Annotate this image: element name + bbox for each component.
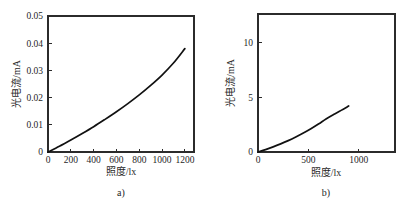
y-tick-label: 5	[248, 93, 253, 103]
x-tick-label: 0	[46, 155, 51, 165]
chart-b-caption: b)	[322, 187, 330, 199]
figure-root: 020040060080010001200 00.010.020.030.040…	[0, 0, 412, 207]
x-tick-label: 0	[256, 155, 261, 165]
chart-a-caption: a)	[117, 187, 125, 199]
chart-a-canvas: 020040060080010001200 00.010.020.030.040…	[0, 0, 212, 207]
x-tick-label: 200	[64, 155, 79, 165]
x-tick-label: 1000	[153, 155, 172, 165]
y-tick-label: 0.05	[26, 11, 43, 21]
chart-panel-a: 020040060080010001200 00.010.020.030.040…	[0, 0, 212, 207]
y-tick-label: 0	[248, 147, 253, 157]
y-tick-label: 0	[38, 147, 43, 157]
chart-a-x-tick-labels: 020040060080010001200	[46, 155, 195, 165]
y-tick-label: 0.04	[26, 39, 43, 49]
chart-a-x-axis-title: 照度/lx	[106, 165, 137, 177]
y-tick-label: 0.02	[26, 93, 43, 103]
chart-b-plot-frame	[258, 14, 395, 152]
x-tick-label: 400	[87, 155, 102, 165]
x-tick-label: 500	[301, 155, 316, 165]
chart-b-x-tick-labels: 05001000	[256, 155, 369, 165]
x-tick-label: 1000	[349, 155, 368, 165]
y-tick-label: 0.03	[26, 66, 43, 76]
chart-a-y-tick-labels: 00.010.020.030.040.05	[26, 11, 43, 157]
chart-b-x-axis-title: 照度/lx	[311, 166, 342, 178]
chart-b-y-axis-title: 光电流/mA	[224, 58, 236, 107]
y-tick-label: 0.01	[26, 120, 43, 130]
x-tick-label: 1200	[175, 155, 194, 165]
chart-a-y-axis-title: 光电流/mA	[10, 59, 22, 108]
chart-panel-b: 05001000 0510 照度/lx 光电流/mA b)	[212, 0, 412, 207]
x-tick-label: 600	[109, 155, 124, 165]
chart-b-y-tick-labels: 0510	[244, 38, 254, 158]
chart-b-canvas: 05001000 0510 照度/lx 光电流/mA b)	[212, 0, 412, 207]
y-tick-label: 10	[244, 38, 254, 48]
chart-a-data-curve	[48, 49, 185, 152]
chart-b-data-curve	[258, 106, 349, 152]
chart-a-plot-frame	[48, 16, 194, 152]
x-tick-label: 800	[132, 155, 147, 165]
